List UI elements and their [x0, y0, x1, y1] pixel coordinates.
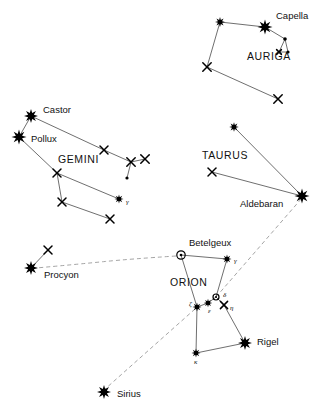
constellation-lines-layer — [19, 22, 302, 353]
star-marker-cmi-procyon — [24, 261, 38, 275]
constellation-line — [181, 255, 227, 259]
star-marker-aur-capella — [258, 20, 273, 35]
constellation-line — [196, 307, 197, 353]
constellation-line — [196, 343, 245, 353]
star-marker-aur-kid1 — [283, 37, 287, 41]
star-label-gem-pollux: Pollux — [31, 133, 57, 144]
star-marker-gem-e3 — [141, 155, 149, 163]
constellation-label-auriga: AURIGA — [247, 50, 291, 62]
greek-label-ori-epsilon: ε — [208, 307, 211, 315]
star-label-ori-rigel: Rigel — [257, 336, 279, 347]
star-chart-canvas: CapellaAURIGACastorPolluxγGEMINIAldebara… — [0, 0, 323, 411]
star-marker-gem-e1 — [100, 146, 108, 154]
guide-betelgeux-to-procyon — [36, 256, 176, 268]
star-marker-ori-zeta — [193, 303, 202, 312]
constellation-label-taurus: TAURUS — [202, 149, 248, 161]
greek-label-ori-gamma: γ — [234, 257, 237, 265]
star-label-cma-sirius: Sirius — [117, 388, 141, 399]
star-marker-cmi-beta — [44, 246, 52, 254]
star-marker-aur-iota — [203, 63, 211, 71]
star-marker-ori-delta — [213, 294, 219, 300]
constellation-line — [220, 22, 265, 27]
star-marker-aur-south — [274, 95, 282, 103]
star-marker-ori-eta — [220, 301, 227, 308]
constellation-line — [224, 305, 245, 343]
guide-belt-to-sirius — [104, 309, 195, 390]
star-label-ori-betelgeux: Betelgeux — [189, 237, 232, 248]
star-marker-gem-e4 — [125, 176, 128, 179]
star-marker-gem-gamma — [115, 195, 124, 204]
greek-label-ori-eta: η — [230, 304, 234, 312]
star-marker-cma-sirius — [97, 385, 111, 399]
constellation-line — [62, 202, 110, 219]
constellation-line — [212, 172, 302, 196]
star-marker-ori-rigel — [238, 336, 252, 350]
constellation-line — [207, 67, 278, 99]
constellation-label-orion: ORION — [170, 276, 207, 288]
star-marker-aur-beta — [215, 17, 225, 27]
greek-label-gem-gamma: γ — [126, 198, 129, 206]
star-marker-gem-low — [58, 198, 66, 206]
star-marker-tau-beta — [229, 122, 239, 132]
star-marker-ori-kappa — [192, 349, 201, 358]
greek-label-ori-delta: δ — [223, 291, 227, 299]
star-marker-gem-mid — [53, 169, 61, 177]
constellation-label-gemini: GEMINI — [58, 153, 99, 165]
star-marker-gem-bot — [106, 215, 114, 223]
star-marker-gem-e2 — [127, 158, 135, 166]
constellation-line — [57, 173, 119, 199]
guide-lines-layer — [36, 198, 302, 390]
star-label-cmi-procyon: Procyon — [44, 269, 79, 280]
star-marker-tau-zeta — [208, 168, 216, 176]
greek-label-ori-zeta: ζ — [189, 300, 193, 308]
star-marker-gem-castor — [24, 109, 38, 123]
labels-layer: CapellaAURIGACastorPolluxγGEMINIAldebara… — [31, 10, 309, 399]
star-label-tau-aldebaran: Aldebaran — [240, 198, 283, 209]
star-chart: CapellaAURIGACastorPolluxγGEMINIAldebara… — [0, 0, 323, 411]
constellation-line — [104, 150, 131, 162]
star-marker-tau-aldebaran — [295, 189, 310, 204]
star-marker-gem-pollux — [12, 130, 27, 145]
star-label-aur-capella: Capella — [276, 10, 309, 21]
constellation-line — [234, 127, 302, 196]
star-marker-ori-gamma — [223, 255, 232, 264]
constellation-line — [207, 22, 220, 67]
greek-label-ori-kappa: κ — [194, 358, 198, 366]
star-label-gem-castor: Castor — [43, 104, 71, 115]
